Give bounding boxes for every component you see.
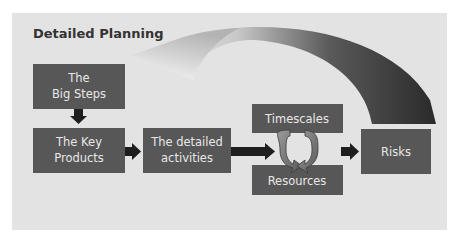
box-timescales: Timescales <box>252 104 343 133</box>
box-big-steps: The Big Steps <box>33 64 125 109</box>
box-big-steps-line1: The <box>67 71 89 85</box>
box-risks: Risks <box>361 129 431 174</box>
box-resources: Resources <box>252 165 343 195</box>
box-risks-label: Risks <box>381 145 411 159</box>
box-key-products-line1: The Key <box>55 135 102 149</box>
box-detailed-activities-line2: activities <box>161 151 213 165</box>
box-timescales-label: Timescales <box>264 112 329 126</box>
detailed-planning-diagram: Detailed Planning The Big Steps The Key … <box>0 0 461 244</box>
box-big-steps-line2: Big Steps <box>52 87 106 101</box>
box-key-products: The Key Products <box>33 128 125 173</box>
box-detailed-activities: The detailed activities <box>143 128 231 173</box>
box-key-products-line2: Products <box>54 151 104 165</box>
diagram-title: Detailed Planning <box>33 26 163 41</box>
box-detailed-activities-line1: The detailed <box>150 135 223 149</box>
box-resources-label: Resources <box>268 174 327 188</box>
